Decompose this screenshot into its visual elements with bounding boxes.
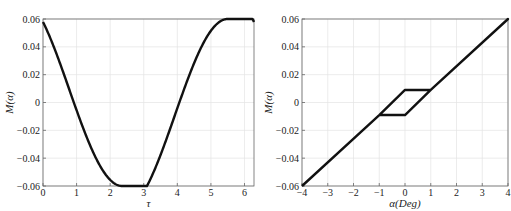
y-tick-label: 0.06	[282, 14, 300, 25]
y-axis-label: M(α)	[3, 91, 16, 115]
x-axis-label: τ	[147, 197, 152, 209]
x-tick-label: 3	[141, 187, 146, 198]
x-tick-label: 1	[428, 187, 433, 198]
x-tick-label: 3	[480, 187, 485, 198]
y-tick-label: −0.06	[17, 181, 40, 192]
y-tick-label: −0.04	[17, 153, 40, 164]
x-tick-label: −2	[348, 187, 359, 198]
y-tick-label: 0.06	[23, 14, 41, 25]
y-tick-label: 0.02	[282, 69, 300, 80]
y-tick-label: 0.04	[282, 41, 300, 52]
x-tick-label: 0	[41, 187, 46, 198]
x-tick-label: 5	[208, 187, 213, 198]
x-tick-label: 2	[108, 187, 113, 198]
y-tick-label: 0.02	[23, 69, 41, 80]
right-plot: −4−3−2−101234−0.06−0.04−0.0200.020.040.0…	[262, 14, 511, 211]
y-tick-label: −0.02	[276, 125, 299, 136]
x-tick-label: 6	[242, 187, 247, 198]
x-axis-label: α(Deg)	[389, 197, 421, 210]
x-tick-label: 4	[506, 187, 511, 198]
x-tick-label: −3	[322, 187, 333, 198]
left-plot: 0123456−0.06−0.04−0.0200.020.040.06τM(α)	[3, 14, 254, 210]
y-tick-label: 0.04	[23, 41, 41, 52]
y-tick-label: −0.06	[276, 181, 299, 192]
x-tick-label: −1	[374, 187, 385, 198]
y-tick-label: 0	[35, 97, 40, 108]
y-tick-label: −0.02	[17, 125, 40, 136]
x-tick-label: 2	[454, 187, 459, 198]
figure: 0123456−0.06−0.04−0.0200.020.040.06τM(α)…	[0, 0, 511, 210]
y-tick-label: 0	[294, 97, 299, 108]
y-tick-label: −0.04	[276, 153, 299, 164]
x-tick-label: 4	[175, 187, 180, 198]
y-axis-label: M(α)	[262, 91, 275, 115]
x-tick-label: 1	[74, 187, 79, 198]
